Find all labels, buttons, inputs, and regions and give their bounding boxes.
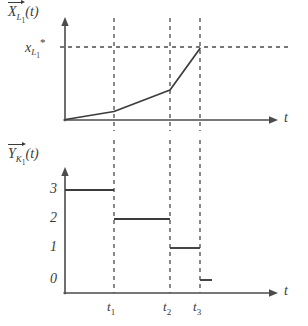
figure-canvas [0,0,308,326]
top-plot-vector-name: X [8,4,17,19]
top-plot-vector-overbar: XL1 [8,4,25,24]
bottom-plot-x-axis-label: t [284,284,288,298]
bottom-plot-vector-subsubscript: 1 [22,158,26,167]
bottom-plot-vector-overbar: YK1 [8,146,26,166]
figure-container: XL1(t) xL1* t YK1(t) 3 2 1 0 t1 t2 t3 t [0,0,308,326]
time-tick-label-t2: t2 [163,300,171,317]
bottom-plot-x-axis-arrowhead [269,289,278,296]
threshold-value-label: xL1* [25,37,45,60]
threshold-superscript-star: * [40,36,46,48]
bottom-plot-y-tick-0: 0 [50,272,57,286]
top-plot-vector-subsubscript: 1 [22,16,26,25]
top-plot-argument: (t) [25,4,38,19]
time-tick-t3-subscript: 3 [197,307,202,317]
threshold-subsubscript: 1 [36,51,40,60]
bottom-plot-vector-name: Y [8,146,16,161]
time-tick-label-t1: t1 [107,300,115,317]
bottom-plot-series-label: YK1(t) [8,146,39,166]
top-plot-x-axis-label: t [284,111,288,125]
top-plot-x-axis-arrowhead [269,116,278,123]
bottom-plot-y-tick-3: 3 [50,182,57,196]
time-tick-t1-subscript: 1 [111,307,116,317]
bottom-plot-y-tick-2: 2 [50,211,57,225]
time-tick-label-t3: t3 [193,300,201,317]
bottom-plot-y-tick-1: 1 [50,240,57,254]
bottom-plot-argument: (t) [26,146,39,161]
top-plot-series-label: XL1(t) [8,4,39,24]
top-plot-y-axis-arrowhead [61,17,68,26]
time-tick-t2-subscript: 2 [167,307,172,317]
trajectory-curve [66,49,201,120]
bottom-plot-y-axis-arrowhead [61,167,68,176]
